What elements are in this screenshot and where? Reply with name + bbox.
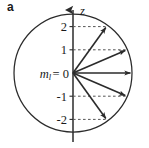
figure-root: a z 2 1	[0, 0, 149, 148]
tick-label-minus-2: -2	[57, 113, 67, 127]
ml-zero-label: ml= 0	[40, 67, 69, 82]
ml-subscript: l	[49, 72, 52, 82]
tick-label-2: 2	[61, 20, 67, 34]
tick-label-1: 1	[61, 43, 67, 57]
tick-label-minus-1: -1	[57, 90, 67, 104]
vector-model-diagram: z 2 1 -1 -2 ml= 0	[0, 0, 149, 148]
ml-symbol: m	[40, 67, 49, 81]
z-axis-label: z	[79, 4, 85, 18]
ml-value: = 0	[53, 67, 69, 81]
